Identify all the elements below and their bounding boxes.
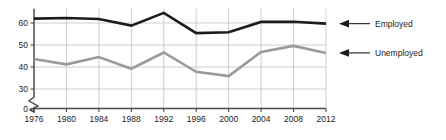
x-tick-label: 1988	[122, 114, 141, 124]
series-line-unemployed	[34, 46, 326, 76]
employed-left-arrow-icon	[339, 20, 349, 28]
horizontal-gridlines	[34, 23, 326, 89]
x-tick-label: 2004	[252, 114, 271, 124]
y-tick-label: 60	[19, 18, 29, 28]
y-tick-label: 0	[23, 104, 28, 114]
annotation-employed: Employed	[339, 19, 413, 29]
x-tick-label: 1976	[25, 114, 44, 124]
unemployed-legend-label: Unemployed	[375, 48, 423, 58]
y-tick-label: 30	[19, 84, 29, 94]
line-chart: 030405060 197619801984198819921996200020…	[0, 0, 446, 140]
x-tick-label: 2008	[284, 114, 303, 124]
y-tick-label: 40	[19, 62, 29, 72]
y-axis-tick-labels: 030405060	[19, 18, 29, 114]
x-tick-label: 2000	[219, 114, 238, 124]
x-tick-label: 1992	[154, 114, 173, 124]
y-tick-label: 50	[19, 40, 29, 50]
x-tick-label: 2012	[317, 114, 336, 124]
x-tick-label: 1984	[89, 114, 108, 124]
x-tick-label: 1996	[187, 114, 206, 124]
annotation-unemployed: Unemployed	[339, 48, 423, 58]
data-series-group	[34, 13, 326, 76]
x-axis-tick-labels: 1976198019841988199219962000200420082012	[25, 114, 336, 124]
chart-canvas: 030405060 197619801984198819921996200020…	[0, 0, 446, 140]
x-tick-label: 1980	[57, 114, 76, 124]
employed-legend-label: Employed	[375, 19, 413, 29]
unemployed-left-arrow-icon	[339, 49, 349, 57]
